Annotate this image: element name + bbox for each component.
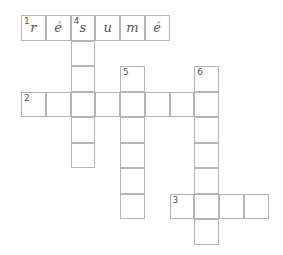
crossword-cell[interactable]: 2 bbox=[21, 92, 46, 118]
crossword-cell[interactable] bbox=[120, 194, 145, 220]
cell-letter: é bbox=[47, 21, 70, 35]
crossword-cell[interactable] bbox=[145, 92, 170, 118]
crossword-cell[interactable]: 4s bbox=[71, 15, 96, 41]
crossword-cell[interactable] bbox=[95, 92, 120, 118]
crossword-cell[interactable] bbox=[194, 219, 219, 245]
clue-number: 2 bbox=[24, 93, 30, 104]
cell-letter: r bbox=[22, 21, 45, 35]
crossword-cell[interactable] bbox=[194, 92, 219, 118]
crossword-cell[interactable] bbox=[71, 143, 96, 169]
crossword-cell[interactable] bbox=[71, 66, 96, 92]
crossword-cell[interactable]: u bbox=[95, 15, 120, 41]
cell-letter: u bbox=[96, 21, 119, 35]
clue-number: 3 bbox=[173, 195, 179, 206]
crossword-cell[interactable] bbox=[194, 143, 219, 169]
crossword-cell[interactable]: m bbox=[120, 15, 145, 41]
crossword-cell[interactable] bbox=[120, 168, 145, 194]
clue-number: 5 bbox=[123, 67, 129, 78]
crossword-cell[interactable] bbox=[120, 117, 145, 143]
crossword-cell[interactable]: 6 bbox=[194, 66, 219, 92]
cell-letter: m bbox=[121, 21, 144, 35]
crossword-grid: 1ré4sumé2356 bbox=[0, 0, 283, 255]
crossword-cell[interactable] bbox=[120, 143, 145, 169]
crossword-cell[interactable] bbox=[219, 194, 244, 220]
cell-letter: é bbox=[146, 21, 169, 35]
crossword-cell[interactable] bbox=[194, 168, 219, 194]
crossword-cell[interactable]: 5 bbox=[120, 66, 145, 92]
crossword-cell[interactable]: 1r bbox=[21, 15, 46, 41]
crossword-cell[interactable]: 3 bbox=[170, 194, 195, 220]
clue-number: 6 bbox=[197, 67, 203, 78]
crossword-cell[interactable] bbox=[170, 92, 195, 118]
crossword-cell[interactable] bbox=[71, 117, 96, 143]
crossword-cell[interactable] bbox=[194, 194, 219, 220]
crossword-cell[interactable] bbox=[194, 117, 219, 143]
crossword-cell[interactable] bbox=[244, 194, 269, 220]
crossword-cell[interactable] bbox=[46, 92, 71, 118]
crossword-cell[interactable] bbox=[120, 92, 145, 118]
crossword-cell[interactable] bbox=[71, 92, 96, 118]
cell-letter: s bbox=[72, 21, 95, 35]
crossword-cell[interactable]: é bbox=[145, 15, 170, 41]
crossword-cell[interactable]: é bbox=[46, 15, 71, 41]
crossword-cell[interactable] bbox=[71, 41, 96, 67]
